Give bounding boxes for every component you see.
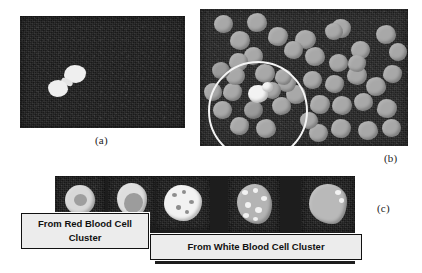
panel-b-cell	[305, 47, 325, 66]
figure-root: (a)	[0, 0, 422, 273]
panel-b-micrograph	[200, 9, 408, 146]
panel-b-cell	[348, 55, 366, 72]
panel-b-cell	[310, 95, 330, 114]
panel-b-cell	[255, 64, 275, 83]
crop-white-2-granule	[255, 207, 262, 213]
panel-b-cell	[204, 83, 222, 101]
crop-white-1	[156, 176, 210, 230]
panel-b-letter: (b)	[384, 152, 397, 164]
white-cluster-label-box: From White Blood Cell Cluster	[150, 234, 362, 260]
panel-b-cell	[275, 69, 292, 85]
panel-b-cell	[268, 27, 288, 46]
crop-white-2-granule	[242, 190, 248, 195]
panel-b-cell	[354, 93, 373, 111]
red-cluster-label-box: From Red Blood Cell Cluster	[21, 213, 149, 249]
crop-white-1-speck	[185, 210, 189, 214]
crop-white-3-cell	[309, 184, 347, 224]
panel-a-cell-lower	[48, 80, 68, 97]
crop-white-2-granule	[253, 217, 258, 221]
crop-white-2-granule	[261, 196, 267, 201]
panel-b-cell	[213, 101, 232, 119]
crop-white-1-speck	[176, 205, 181, 210]
panel-b-cell	[331, 119, 351, 138]
panel-b-cell	[230, 117, 249, 135]
crop-white-2	[228, 176, 280, 232]
panel-a-micrograph	[20, 16, 185, 128]
panel-a-grain	[20, 16, 185, 128]
panel-b-cell	[212, 62, 230, 79]
panel-b-cell	[389, 43, 407, 61]
red-cluster-label-line-1: From Red Blood Cell	[38, 217, 132, 231]
panel-b-cell	[376, 25, 396, 44]
panel-b-white-blood-cell-lobe	[262, 82, 273, 92]
panel-b-cell	[325, 23, 343, 40]
crop-white-3-granule	[339, 198, 344, 203]
panel-b-cell	[214, 15, 233, 33]
panel-a-letter: (a)	[95, 134, 108, 146]
crop-white-3	[301, 176, 355, 232]
panel-b-cell	[329, 54, 348, 72]
panel-b-cell	[300, 112, 318, 129]
crop-white-1-speck	[189, 200, 194, 204]
panel-b-cell	[247, 13, 267, 32]
crop-white-2-granule	[243, 213, 249, 218]
crop-white-3-granule	[335, 190, 341, 195]
red-cluster-label-line-2: Cluster	[38, 231, 132, 245]
crop-red-1-nucleus	[74, 194, 87, 206]
panel-b-cell	[366, 77, 386, 96]
panel-b-cell	[303, 71, 322, 89]
crop-white-2-granule	[253, 188, 258, 193]
panel-b-cell	[223, 83, 242, 101]
panel-b-cell	[230, 31, 250, 50]
panel-b-cell	[377, 99, 397, 118]
panel-b-cell	[325, 75, 344, 93]
panel-b-cell	[383, 65, 402, 83]
crop-white-1-speck	[182, 190, 186, 194]
panel-b-cell	[244, 101, 263, 119]
white-cluster-label-line-1: From White Blood Cell Cluster	[187, 240, 324, 254]
crop-white-1-speck	[172, 193, 177, 197]
panel-b-cell	[358, 121, 378, 140]
panel-b-cell	[284, 41, 303, 59]
panel-b-cell	[332, 96, 352, 115]
panel-c-letter: (c)	[377, 202, 390, 214]
crop-white-2-granule	[245, 202, 251, 208]
panel-b-cell	[382, 119, 401, 137]
panel-b-cell	[272, 97, 291, 115]
panel-b-cell	[256, 119, 276, 138]
